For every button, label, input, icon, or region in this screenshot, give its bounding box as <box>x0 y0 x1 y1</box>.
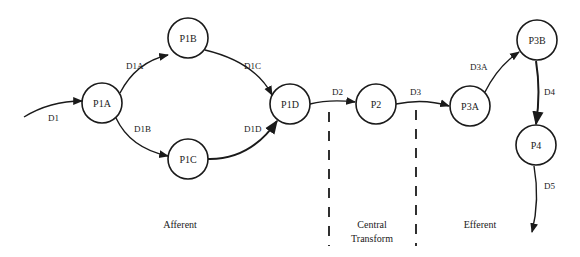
label-d1c: D1C <box>244 61 261 71</box>
svg-text:P4: P4 <box>531 140 542 151</box>
region-central-line2: Transform <box>351 233 393 244</box>
label-d2: D2 <box>332 87 343 97</box>
node-p1c: P1C <box>168 139 208 179</box>
node-p2: P2 <box>356 84 396 124</box>
edge-d1d <box>208 121 277 159</box>
node-p1b: P1B <box>168 18 208 58</box>
label-d1: D1 <box>48 113 59 123</box>
node-p3b: P3B <box>517 20 557 60</box>
svg-text:P1B: P1B <box>179 33 197 44</box>
label-d1b: D1B <box>134 124 151 134</box>
label-d4: D4 <box>544 87 555 97</box>
label-d3a: D3A <box>470 62 488 72</box>
svg-text:P1D: P1D <box>281 99 299 110</box>
label-d1a: D1A <box>126 61 144 71</box>
data-flow-diagram: P1A P1B P1C P1D P2 P3A P3B P4 D1 D1A D1B… <box>0 0 580 257</box>
svg-text:P1C: P1C <box>179 154 197 165</box>
edge-d1c <box>205 50 272 95</box>
label-d1d: D1D <box>244 124 262 134</box>
node-p3a: P3A <box>450 86 490 126</box>
region-central-line1: Central <box>357 219 387 230</box>
label-d3: D3 <box>410 87 421 97</box>
region-afferent: Afferent <box>163 219 197 230</box>
label-d5: D5 <box>544 181 555 191</box>
edge-d3 <box>396 101 449 106</box>
node-p1a: P1A <box>82 83 122 123</box>
node-p4: P4 <box>516 125 556 165</box>
node-p1d: P1D <box>270 84 310 124</box>
svg-text:P1A: P1A <box>93 98 112 109</box>
edge-d2 <box>310 101 355 104</box>
edge-d5 <box>532 166 537 232</box>
edge-d3a <box>485 52 519 92</box>
svg-text:P2: P2 <box>371 99 382 110</box>
svg-text:P3A: P3A <box>461 101 480 112</box>
region-efferent: Efferent <box>464 219 497 230</box>
svg-text:P3B: P3B <box>528 35 546 46</box>
edge-d4 <box>536 61 539 124</box>
